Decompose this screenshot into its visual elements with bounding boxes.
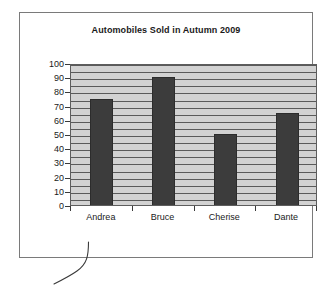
plot-area bbox=[70, 64, 317, 206]
bar-bruce bbox=[152, 77, 175, 205]
chart-panel: Automobiles Sold in Autumn 2009 01020304… bbox=[19, 12, 313, 258]
y-axis-tick-label: 80 bbox=[32, 88, 64, 97]
x-axis-labels: AndreaBruceCheriseDante bbox=[70, 212, 317, 226]
bar-andrea bbox=[90, 99, 113, 206]
x-axis-tick bbox=[132, 206, 133, 211]
y-axis-tick-label: 10 bbox=[32, 187, 64, 196]
x-axis-label-cherise: Cherise bbox=[209, 212, 240, 222]
y-axis-tick-label: 70 bbox=[32, 102, 64, 111]
y-axis-tick-label: 90 bbox=[32, 74, 64, 83]
y-axis-tick-label: 30 bbox=[32, 159, 64, 168]
plot-wrapper: 0102030405060708090100 AndreaBruceCheris… bbox=[70, 64, 317, 206]
x-axis-label-dante: Dante bbox=[274, 212, 298, 222]
y-axis-tick-label: 40 bbox=[32, 145, 64, 154]
bar-dante bbox=[276, 113, 299, 205]
bar-cherise bbox=[214, 134, 237, 205]
x-axis-tick bbox=[194, 206, 195, 211]
x-axis-label-andrea: Andrea bbox=[86, 212, 115, 222]
y-axis-tick-label: 100 bbox=[32, 60, 64, 69]
y-axis-tick-label: 20 bbox=[32, 173, 64, 182]
bars-layer bbox=[71, 65, 316, 205]
y-axis-tick-label: 50 bbox=[32, 131, 64, 140]
y-axis-tick-label: 60 bbox=[32, 116, 64, 125]
x-axis-tick bbox=[70, 206, 71, 211]
x-axis-label-bruce: Bruce bbox=[151, 212, 175, 222]
y-axis-labels: 0102030405060708090100 bbox=[32, 64, 64, 206]
y-axis-tick-label: 0 bbox=[32, 202, 64, 211]
x-axis-tick bbox=[316, 206, 317, 211]
chart-title: Automobiles Sold in Autumn 2009 bbox=[20, 25, 312, 35]
x-axis-ticks bbox=[70, 206, 317, 211]
x-axis-tick bbox=[255, 206, 256, 211]
